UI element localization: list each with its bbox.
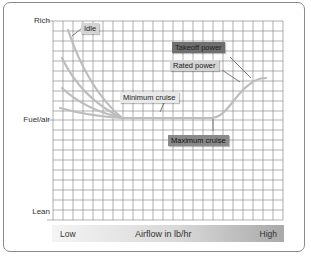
x-axis-band: Low Airflow in lb/hr High xyxy=(52,225,284,242)
x-axis-title: Airflow in lb/hr xyxy=(135,229,192,239)
callout-rated-power: Rated power xyxy=(170,60,219,71)
grid xyxy=(47,21,283,220)
callout-minimum-cruise: Minimum cruise xyxy=(120,92,179,103)
x-label-low: Low xyxy=(60,229,76,239)
callout-idle: Idle xyxy=(81,23,99,34)
chart-plot xyxy=(0,0,311,256)
callout-takeoff-power: Takeoff power xyxy=(172,42,225,53)
x-label-high: High xyxy=(260,229,277,239)
callout-maximum-cruise: Maximum cruise xyxy=(168,135,229,146)
curve-idle xyxy=(68,30,122,118)
